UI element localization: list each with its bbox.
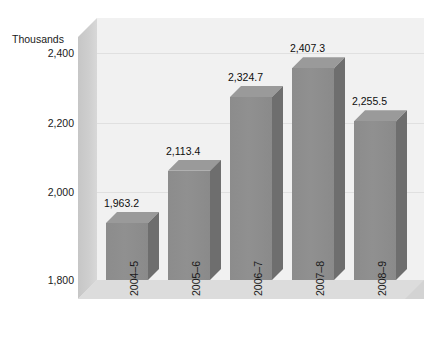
bar [354, 110, 396, 280]
x-axis-tick-label: 2006–7 [252, 261, 264, 296]
bar-front-face [230, 97, 272, 280]
bar-value-label: 2,255.5 [352, 95, 387, 107]
y-axis-tick-label: 2,400 [30, 47, 74, 59]
bar-value-label: 2,407.3 [290, 42, 325, 54]
y-axis-tick-label: 2,200 [30, 117, 74, 129]
y-axis-tick-label: 2,000 [30, 186, 74, 198]
bar-value-label: 2,113.4 [166, 145, 200, 157]
bar-chart: Thousands 1,8002,0002,2002,400 1,963.22,… [0, 0, 427, 344]
y-axis-title: Thousands [12, 33, 64, 45]
x-axis-tick-label: 2008–9 [376, 261, 388, 296]
bar-front-face [292, 68, 334, 280]
bar-side-face [148, 212, 159, 280]
bar [292, 57, 334, 280]
bar-side-face [396, 110, 407, 280]
y-axis-tick-label: 1,800 [30, 274, 74, 286]
bar-front-face [168, 171, 210, 280]
bar [230, 86, 272, 280]
y-axis-tick: 2,000 [22, 186, 74, 198]
x-axis-tick-label: 2004–5 [128, 261, 140, 296]
x-axis-tick-label: 2005–6 [190, 261, 202, 296]
y-axis-tick: 2,400 [22, 47, 74, 59]
bar-side-face [334, 57, 345, 280]
gridline [97, 53, 424, 54]
bar-side-face [210, 160, 221, 280]
bar [168, 160, 210, 280]
bar-front-face [354, 121, 396, 280]
y-axis-tick: 2,200 [22, 117, 74, 129]
bar-front-face [106, 223, 148, 280]
bar-value-label: 2,324.7 [228, 71, 263, 83]
bar-side-face [272, 86, 283, 280]
gridline-wall-segment [78, 123, 97, 142]
gridline-wall-segment [78, 53, 97, 72]
gridline-wall-segment [78, 192, 97, 211]
x-axis-tick-label: 2007–8 [314, 261, 326, 296]
bar [106, 212, 148, 280]
bar-value-label: 1,963.2 [104, 197, 139, 209]
y-axis-tick: 1,800 [22, 274, 74, 286]
